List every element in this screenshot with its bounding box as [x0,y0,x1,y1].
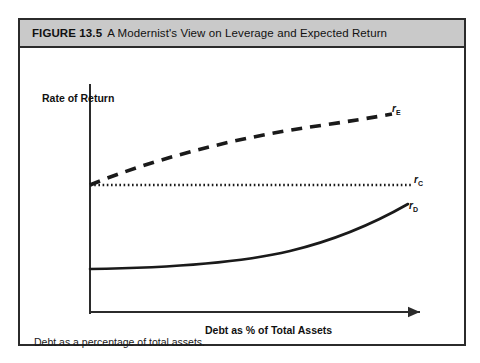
series-label-r-e-sub: E [396,109,401,116]
series-label-r-d: rD [409,200,418,213]
series-label-r-c: rC [414,174,423,187]
series-label-r-e: rE [392,103,401,116]
plot-area: Rate of Return Debt as % of Total Assets… [20,48,464,344]
series-line-r-e [90,114,392,185]
series-label-r-d-sub: D [413,206,418,213]
x-axis-label: Debt as % of Total Assets [205,324,332,336]
figure-caption: Debt as a percentage of total assets. [34,336,205,348]
figure-title: A Modernist's View on Leverage and Expec… [107,27,387,39]
y-axis-label: Rate of Return [42,92,92,105]
figure-header-text: FIGURE 13.5A Modernist's View on Leverag… [20,27,387,39]
series-line-r-d [90,204,408,269]
series-label-r-c-sub: C [418,180,423,187]
figure-container: FIGURE 13.5A Modernist's View on Leverag… [18,18,466,346]
figure-header-bar: FIGURE 13.5A Modernist's View on Leverag… [20,20,464,48]
figure-number-label: FIGURE 13.5 [32,27,102,39]
